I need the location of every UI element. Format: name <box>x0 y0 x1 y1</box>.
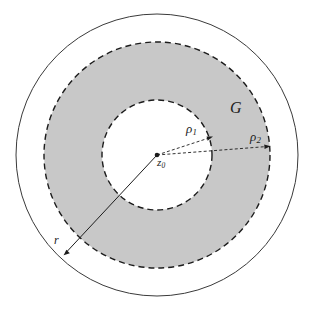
annulus-diagram-figure: ρ1 ρ2 G z0 r <box>0 0 311 314</box>
label-rho2: ρ2 <box>250 130 261 145</box>
label-rho1: ρ1 <box>186 122 197 137</box>
label-rho2-subscript: 2 <box>256 135 260 145</box>
label-radius-r: r <box>54 234 59 246</box>
label-region-g: G <box>230 100 242 116</box>
label-rho1-subscript: 1 <box>192 127 196 137</box>
r-arrowhead <box>64 250 70 255</box>
label-center-z0: z0 <box>157 157 165 170</box>
label-z0-subscript: 0 <box>161 161 165 170</box>
diagram-canvas <box>0 0 311 314</box>
